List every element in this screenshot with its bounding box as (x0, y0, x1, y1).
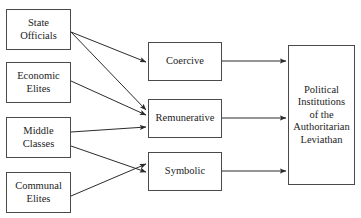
node-label-line: Leviathan (301, 134, 343, 146)
node-symbolic[interactable]: Symbolic (148, 152, 222, 191)
node-label-line: Symbolic (165, 165, 205, 177)
arrow-communal-elites-to-symbolic (71, 164, 146, 196)
node-label-line: Political (304, 84, 339, 96)
node-label-line: of the (309, 109, 333, 121)
node-label-line: Classes (23, 138, 55, 150)
node-label-line: Middle (23, 125, 53, 137)
arrow-state-officials-to-coercive (71, 32, 146, 62)
node-political-institutions[interactable]: Political Institutions of the Authoritar… (288, 45, 355, 185)
node-remunerative[interactable]: Remunerative (148, 99, 222, 138)
node-label-line: Elites (27, 193, 51, 205)
node-label-line: Communal (15, 180, 62, 192)
node-label-line: Officials (20, 30, 57, 42)
node-label-line: Institutions (298, 96, 345, 108)
node-coercive[interactable]: Coercive (148, 42, 222, 81)
node-state-officials[interactable]: State Officials (6, 9, 71, 50)
node-label-line: Remunerative (156, 112, 215, 124)
node-label-line: Economic (17, 70, 60, 82)
arrow-middle-classes-to-symbolic (71, 146, 146, 172)
node-communal-elites[interactable]: Communal Elites (6, 172, 71, 213)
node-label-line: Authoritarian (293, 121, 350, 133)
flow-diagram: State Officials Economic Elites Middle C… (0, 0, 361, 218)
node-economic-elites[interactable]: Economic Elites (6, 62, 71, 103)
node-label-line: Elites (27, 83, 51, 95)
node-label-line: Coercive (166, 55, 204, 67)
node-middle-classes[interactable]: Middle Classes (6, 117, 71, 158)
node-label-line: State (28, 17, 49, 29)
arrow-middle-classes-to-remunerative (71, 127, 146, 132)
